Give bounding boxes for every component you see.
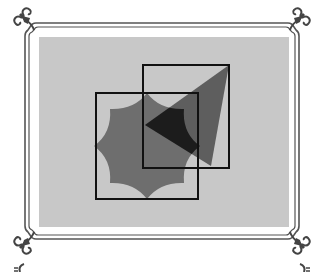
ornament-top-left-icon [14,8,34,30]
next-frame-ornament-left-icon [14,264,24,272]
ornament-bottom-right-icon [290,232,310,254]
ornament-bottom-left-icon [14,232,34,254]
ornament-top-right-icon [290,8,310,30]
framed-figure [0,0,324,272]
next-frame-ornament-right-icon [300,264,310,272]
